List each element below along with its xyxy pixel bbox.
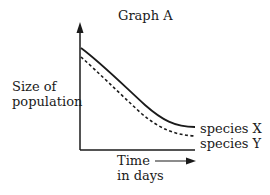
- x-axis-label-line1: Time: [117, 153, 164, 168]
- x-axis-label: Time in days: [117, 153, 164, 183]
- legend-species-x: species X: [200, 122, 262, 136]
- y-axis-arrow-icon: [77, 22, 84, 33]
- time-arrow-icon: [186, 158, 196, 165]
- legend-species-y: species Y: [200, 137, 261, 151]
- x-axis-label-line2: in days: [117, 168, 164, 183]
- graph-a-figure: Graph A Size of population Time in days …: [0, 0, 270, 195]
- series-species-x-line: [81, 48, 195, 127]
